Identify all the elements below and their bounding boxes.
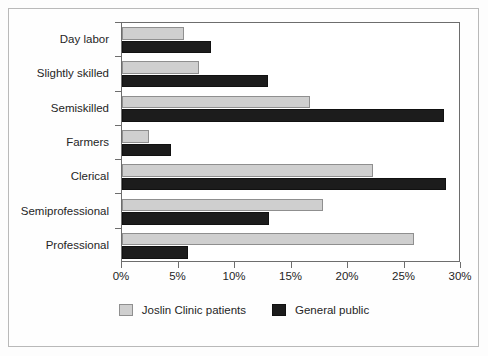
bar-farmers-joslin — [122, 130, 149, 143]
bar-semiprofessional-public — [122, 212, 269, 225]
category-axis-labels: Day laborSlightly skilledSemiskilledFarm… — [0, 22, 115, 262]
legend-label: Joslin Clinic patients — [142, 304, 246, 316]
legend-item: General public — [272, 304, 369, 316]
x-axis-tick — [460, 262, 461, 268]
bar-day-labor-public — [122, 41, 211, 54]
bar-day-labor-joslin — [122, 27, 184, 40]
bar-farmers-public — [122, 144, 171, 157]
legend-swatch-icon — [272, 304, 286, 316]
y-axis-tick — [115, 228, 121, 229]
x-axis-tick-label: 25% — [392, 270, 415, 282]
bar-clerical-joslin — [122, 164, 373, 177]
bar-semiskilled-public — [122, 109, 444, 122]
y-axis-tick — [115, 193, 121, 194]
y-axis-tick — [115, 56, 121, 57]
chart-legend: Joslin Clinic patientsGeneral public — [0, 304, 488, 316]
legend-label: General public — [295, 304, 369, 316]
x-axis-tick — [178, 262, 179, 268]
bar-slightly-skilled-public — [122, 75, 268, 88]
x-axis-tick — [121, 262, 122, 268]
category-label-farmers: Farmers — [66, 136, 109, 148]
x-axis-tick — [404, 262, 405, 268]
plot-area — [121, 22, 460, 262]
x-axis-tick-label: 0% — [113, 270, 130, 282]
x-axis-tick-label: 20% — [335, 270, 358, 282]
legend-item: Joslin Clinic patients — [119, 304, 246, 316]
x-axis-tick — [347, 262, 348, 268]
x-axis-tick — [291, 262, 292, 268]
x-axis-tick-label: 30% — [448, 270, 471, 282]
category-label-clerical: Clerical — [71, 170, 109, 182]
y-axis-tick — [115, 91, 121, 92]
bar-professional-joslin — [122, 233, 414, 246]
category-label-semiprofessional: Semiprofessional — [21, 205, 109, 217]
bar-slightly-skilled-joslin — [122, 61, 199, 74]
bar-professional-public — [122, 246, 188, 259]
bar-clerical-public — [122, 178, 446, 191]
category-label-slightly-skilled: Slightly skilled — [37, 67, 109, 79]
bar-semiskilled-joslin — [122, 96, 310, 109]
x-axis-tick — [234, 262, 235, 268]
category-label-semiskilled: Semiskilled — [51, 102, 109, 114]
y-axis-tick — [115, 22, 121, 23]
bar-semiprofessional-joslin — [122, 199, 323, 212]
x-axis-tick-label: 15% — [279, 270, 302, 282]
y-axis-tick — [115, 159, 121, 160]
legend-swatch-icon — [119, 304, 133, 316]
chart-page: Day laborSlightly skilledSemiskilledFarm… — [0, 0, 488, 356]
x-axis-tick-label: 10% — [222, 270, 245, 282]
y-axis-tick — [115, 125, 121, 126]
category-label-professional: Professional — [46, 239, 109, 251]
category-label-day-labor: Day labor — [60, 33, 109, 45]
x-axis-tick-label: 5% — [169, 270, 186, 282]
